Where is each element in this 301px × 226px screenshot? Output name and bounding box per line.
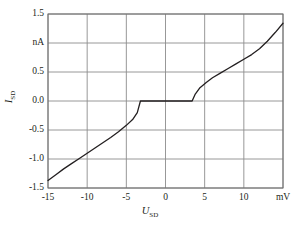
y-axis-title: ISD (3, 91, 17, 104)
x-axis-title-subscript: SD (149, 211, 158, 219)
x-tick-label-5: 5 (202, 193, 207, 203)
x-tick-label-0: 0 (163, 193, 168, 203)
y-tick-label--1.0: -1.0 (29, 154, 44, 164)
x-tick-label--15: -15 (42, 193, 55, 203)
y-axis-title-subscript: SD (9, 91, 17, 100)
x-tick-label--10: -10 (81, 193, 94, 203)
x-axis-title-symbol: U (142, 205, 150, 216)
x-tick-label-mV: mV (276, 193, 290, 203)
x-tick-label-10: 10 (239, 193, 249, 203)
x-axis-title: USD (142, 205, 159, 219)
y-tick-label-0.5: 0.5 (32, 67, 44, 77)
y-tick-label-0.0: 0.0 (32, 96, 44, 106)
y-tick-label-1.5: 1.5 (32, 9, 44, 19)
y-axis-title-symbol: I (3, 100, 14, 104)
x-tick-label--5: -5 (122, 193, 130, 203)
y-tick-label-nA: nA (32, 38, 44, 48)
y-tick-label--0.5: -0.5 (29, 125, 44, 135)
chart-figure: -1.5-1.0-0.50.00.5nA1.5 -15-10-50510mV U… (0, 0, 301, 226)
